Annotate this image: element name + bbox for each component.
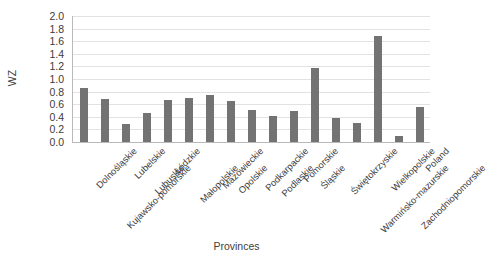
bar[interactable] xyxy=(143,113,151,142)
y-tick-label: 0.8 xyxy=(49,87,64,98)
y-tick-label: 0.2 xyxy=(49,124,64,135)
bar[interactable] xyxy=(206,95,214,142)
bar-slot xyxy=(178,16,199,142)
bar[interactable] xyxy=(164,100,172,142)
bar-slot xyxy=(325,16,346,142)
bar[interactable] xyxy=(290,111,298,142)
y-tick-label: 1.8 xyxy=(49,24,64,35)
bar[interactable] xyxy=(80,88,88,142)
bar-slot xyxy=(94,16,115,142)
bar[interactable] xyxy=(227,101,235,142)
y-tick-label: 2.0 xyxy=(49,11,64,22)
bar-series xyxy=(73,16,430,142)
bar-slot xyxy=(115,16,136,142)
y-tick-label: 1.0 xyxy=(49,74,64,85)
x-axis-tick-labels: DolnośląskieKujawsko-pomorskieLubelskieL… xyxy=(72,143,430,238)
bar-slot xyxy=(367,16,388,142)
x-axis-title: Provinces xyxy=(0,240,473,252)
bar[interactable] xyxy=(269,116,277,142)
bar[interactable] xyxy=(332,118,340,142)
y-tick-label: 1.6 xyxy=(49,36,64,47)
bar-slot xyxy=(304,16,325,142)
bar[interactable] xyxy=(311,68,319,142)
bar-slot xyxy=(409,16,430,142)
bar-slot xyxy=(220,16,241,142)
bar[interactable] xyxy=(395,136,403,142)
bar-slot xyxy=(199,16,220,142)
bar[interactable] xyxy=(185,98,193,142)
x-tick-label: Dolnośląskie xyxy=(94,146,138,190)
bar-slot xyxy=(136,16,157,142)
bar[interactable] xyxy=(374,36,382,142)
bar[interactable] xyxy=(416,107,424,142)
bar[interactable] xyxy=(248,110,256,142)
bar-slot xyxy=(73,16,94,142)
y-tick-label: 0.4 xyxy=(49,112,64,123)
plot-area xyxy=(72,16,430,143)
bar-slot xyxy=(346,16,367,142)
y-tick-label: 0.0 xyxy=(49,137,64,148)
bar-slot xyxy=(157,16,178,142)
y-tick-label: 0.6 xyxy=(49,99,64,110)
bar-slot xyxy=(283,16,304,142)
bar-slot xyxy=(388,16,409,142)
bar-slot xyxy=(262,16,283,142)
bar-slot xyxy=(241,16,262,142)
bar[interactable] xyxy=(101,99,109,142)
y-tick-label: 1.2 xyxy=(49,61,64,72)
y-axis-tick-labels: 2.01.81.61.41.21.00.80.60.40.20.0 xyxy=(30,16,68,143)
y-axis-title: WZ xyxy=(0,68,32,88)
bar[interactable] xyxy=(122,124,130,142)
y-tick-label: 1.4 xyxy=(49,49,64,60)
bar[interactable] xyxy=(353,123,361,142)
